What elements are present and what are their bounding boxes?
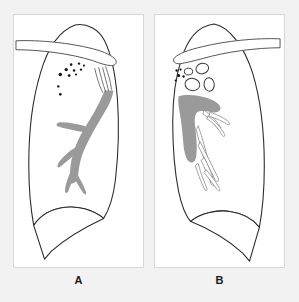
nodule-b-2 [180, 68, 182, 70]
nodule-a-8 [59, 73, 63, 77]
nodule-b-4 [182, 75, 184, 77]
nodule-a-5 [65, 68, 68, 71]
nodule-a-10 [75, 73, 77, 75]
figure-root: A B [0, 0, 299, 302]
nodule-a-7 [80, 68, 82, 70]
panel-b[interactable] [154, 14, 285, 268]
nodule-a-3 [78, 62, 80, 64]
nodule-a-6 [73, 69, 76, 72]
nodule-a-9 [68, 74, 71, 77]
nodule-b-1 [175, 69, 177, 71]
nodule-a-4 [83, 65, 85, 67]
panel-label-a: A [13, 274, 144, 286]
nodule-a-12 [59, 93, 62, 96]
nodule-a-11 [57, 85, 59, 87]
nodule-a-2 [70, 63, 73, 66]
panel-a[interactable] [13, 14, 144, 268]
panel-a-illustration [14, 15, 143, 267]
costophrenic-angle-a [34, 207, 104, 259]
nodule-b-5 [175, 79, 177, 81]
panel-b-illustration [155, 15, 284, 267]
panel-label-b: B [154, 274, 285, 286]
nodule-b-3 [177, 74, 180, 77]
costophrenic-angle-b [190, 211, 259, 261]
cavity-upper-left [184, 68, 192, 75]
